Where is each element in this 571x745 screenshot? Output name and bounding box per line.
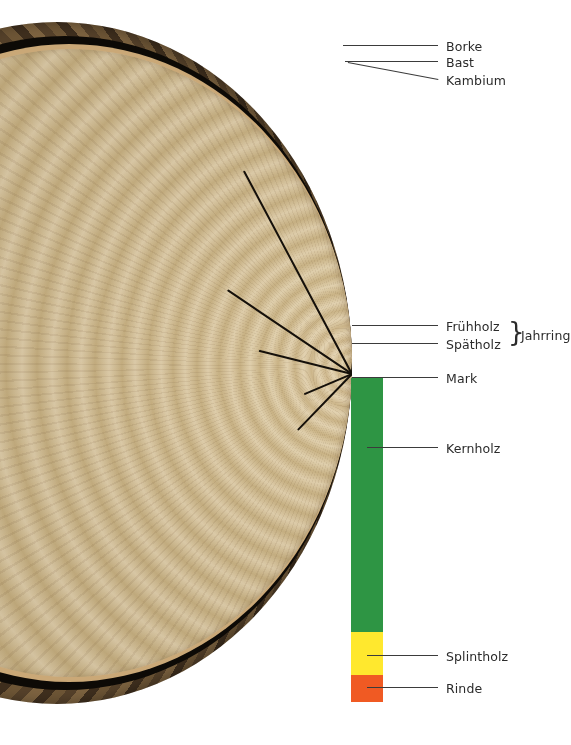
label-spaetholz: Spätholz [446,337,501,352]
label-rinde: Rinde [446,681,482,696]
color-bar-segment-bark [351,675,383,702]
leader-line-kernholz [367,447,438,448]
leader-line-bast [345,61,438,62]
label-fruehholz: Frühholz [446,319,500,334]
jahrring-group-label: Jahrring [521,328,570,343]
layer-color-bar [351,378,383,702]
leader-line-kambium [348,62,438,80]
trunk-cross-section-image [0,22,352,704]
leader-line-spaetholz [352,343,438,344]
label-kernholz: Kernholz [446,441,501,456]
leader-line-rinde [367,687,438,688]
label-kambium: Kambium [446,73,506,88]
color-bar-segment-heartwood [351,378,383,632]
leader-line-borke [343,45,438,46]
label-mark: Mark [446,371,477,386]
color-bar-segment-sapwood [351,632,383,675]
leader-line-mark [352,377,438,378]
label-borke: Borke [446,39,482,54]
label-splintholz: Splintholz [446,649,508,664]
leader-line-splintholz [367,655,438,656]
leader-line-fruehholz [352,325,438,326]
wood-fibre-texture [0,49,352,677]
figure-canvas: BorkeBastKambiumFrühholzSpätholzMarkKern… [0,0,571,745]
label-bast: Bast [446,55,474,70]
